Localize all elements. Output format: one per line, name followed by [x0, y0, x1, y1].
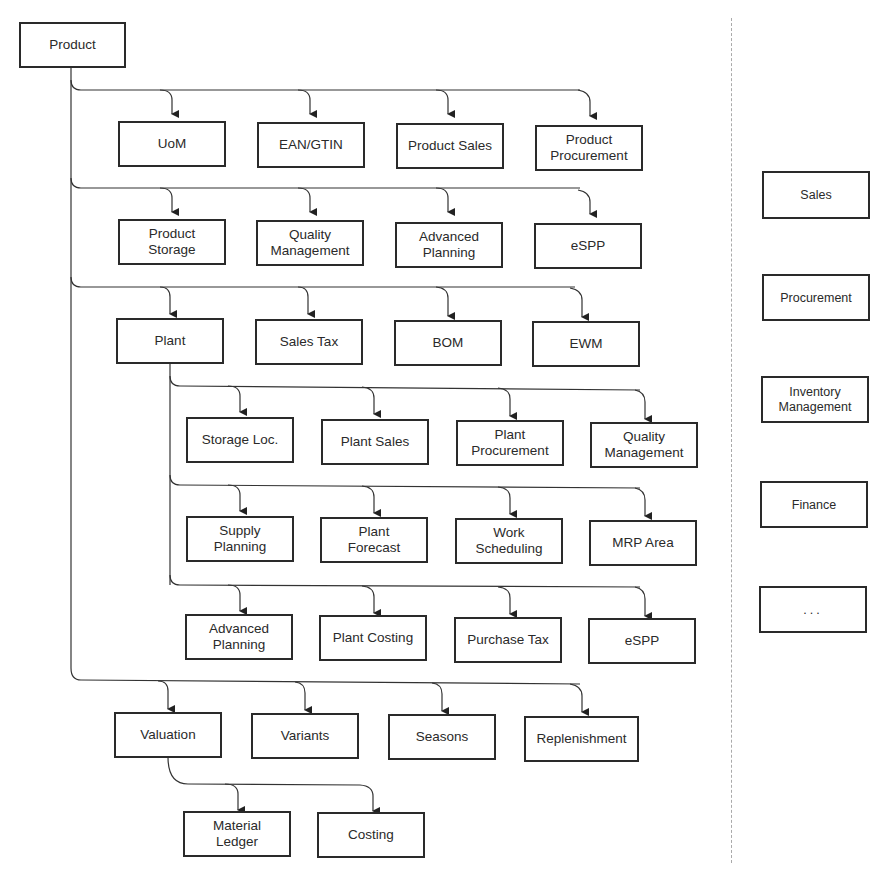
node-uom: UoM — [118, 121, 226, 167]
node-storage-loc: Storage Loc. — [186, 417, 294, 463]
node-ewm: EWM — [532, 321, 640, 367]
area-procurement: Procurement — [762, 274, 870, 321]
node-supply-planning: Supply Planning — [186, 516, 294, 562]
node-material-ledger: Material Ledger — [183, 811, 291, 857]
area-inventory-management: Inventory Management — [761, 376, 869, 423]
node-mrp-area: MRP Area — [589, 520, 697, 566]
node-plant-forecast: Plant Forecast — [320, 517, 428, 563]
node-ean-gtin: EAN/GTIN — [257, 122, 365, 168]
node-variants: Variants — [251, 713, 359, 759]
area-sales: Sales — [762, 171, 870, 219]
node-plant-espp: eSPP — [588, 618, 696, 664]
node-purchase-tax: Purchase Tax — [454, 617, 562, 663]
node-valuation: Valuation — [114, 712, 222, 758]
node-plant: Plant — [116, 318, 224, 364]
node-plant-procurement: Plant Procurement — [456, 420, 564, 466]
node-seasons: Seasons — [388, 714, 496, 760]
node-plant-costing: Plant Costing — [319, 615, 427, 661]
area-more: ... — [759, 586, 867, 633]
node-costing: Costing — [317, 812, 425, 858]
node-espp: eSPP — [534, 223, 642, 269]
area-finance: Finance — [760, 481, 868, 528]
node-product: Product — [19, 22, 126, 68]
node-replenishment: Replenishment — [524, 716, 639, 762]
node-product-storage: Product Storage — [118, 219, 226, 265]
node-plant-sales: Plant Sales — [321, 419, 429, 465]
node-plant-quality-management: Quality Management — [590, 422, 698, 468]
node-plant-advanced-planning: Advanced Planning — [185, 614, 293, 660]
node-quality-management: Quality Management — [256, 220, 364, 266]
node-sales-tax: Sales Tax — [255, 319, 363, 365]
node-work-scheduling: Work Scheduling — [455, 518, 563, 564]
node-advanced-planning: Advanced Planning — [395, 222, 503, 268]
node-product-sales: Product Sales — [396, 123, 504, 169]
node-bom: BOM — [394, 320, 502, 366]
node-product-procurement: Product Procurement — [535, 125, 643, 171]
section-divider — [731, 18, 732, 863]
